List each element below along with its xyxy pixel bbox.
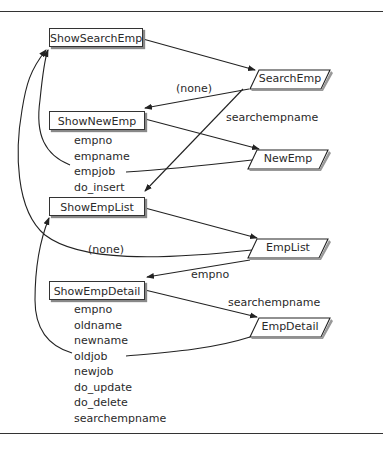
edge-showsearchemp-searchemp [143, 39, 255, 70]
param: empjob [74, 164, 130, 180]
edge-emplist-showsearchemp [18, 50, 252, 257]
param: empno [74, 302, 166, 318]
edge-newemp-empjob [126, 160, 252, 172]
param: newname [74, 333, 166, 349]
param: do_insert [74, 180, 130, 196]
page-shownewemp[interactable]: ShowNewEmp [49, 111, 145, 130]
param: empno [74, 133, 130, 149]
param: oldname [74, 318, 166, 334]
edge-label-empno: empno [191, 268, 229, 281]
page-showempdetail[interactable]: ShowEmpDetail [49, 281, 145, 300]
process-label: EmpDetail [261, 320, 318, 333]
process-label: EmpList [266, 241, 310, 254]
param: searchempname [74, 411, 166, 427]
edge-label-none-mid: (none) [88, 243, 124, 256]
process-empdetail[interactable]: EmpDetail [249, 317, 331, 337]
edge-showemplist-emplist [145, 208, 257, 238]
param: empname [74, 149, 130, 165]
process-newemp[interactable]: NewEmp [247, 149, 329, 169]
param: do_delete [74, 395, 166, 411]
page-label: ShowEmpList [60, 201, 134, 214]
showempdetail-params: empno oldname newname oldjob newjob do_u… [74, 302, 166, 426]
page-label: ShowSearchEmp [50, 32, 142, 45]
page-label: ShowNewEmp [58, 115, 136, 128]
page-label: ShowEmpDetail [54, 285, 141, 298]
param: newjob [74, 364, 166, 380]
process-emplist[interactable]: EmpList [247, 238, 329, 258]
process-label: SearchEmp [259, 72, 321, 85]
param: do_update [74, 380, 166, 396]
page-showsearchemp[interactable]: ShowSearchEmp [49, 28, 143, 47]
edge-label-searchempname-bottom: searchempname [228, 296, 320, 309]
param: oldjob [74, 349, 166, 365]
edge-label-searchempname-top: searchempname [226, 111, 318, 124]
process-label: NewEmp [264, 152, 313, 165]
edge-searchemp-showemplist [145, 89, 243, 191]
edge-empjob-showsearchemp [39, 50, 70, 165]
page-showemplist[interactable]: ShowEmpList [49, 197, 145, 216]
edges-layer [0, 0, 383, 449]
shownewemp-params: empno empname empjob do_insert [74, 133, 130, 195]
process-searchemp[interactable]: SearchEmp [249, 69, 331, 89]
edge-label-none-top: (none) [176, 82, 212, 95]
